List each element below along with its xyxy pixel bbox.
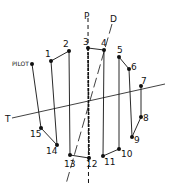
flight-path bbox=[32, 48, 141, 158]
waypoint-pilot bbox=[30, 62, 34, 66]
label-5: 5 bbox=[117, 45, 123, 55]
axis-d-label: D bbox=[110, 14, 117, 24]
label-15: 15 bbox=[30, 129, 41, 139]
label-4: 4 bbox=[101, 38, 107, 48]
label-1: 1 bbox=[45, 49, 51, 59]
waypoint-1 bbox=[49, 59, 53, 63]
label-10: 10 bbox=[121, 149, 133, 159]
label-6: 6 bbox=[131, 62, 137, 72]
label-3: 3 bbox=[83, 37, 89, 47]
axis-t-label: T bbox=[4, 114, 11, 124]
waypoints bbox=[30, 46, 143, 160]
flight-pattern-diagram: P D T PILOT 1 2 3 4 5 6 7 8 9 10 11 12 1… bbox=[0, 0, 177, 193]
label-14: 14 bbox=[46, 146, 58, 156]
label-7: 7 bbox=[141, 76, 147, 86]
waypoint-2 bbox=[67, 49, 71, 53]
label-8: 8 bbox=[143, 113, 149, 123]
axis-p-label: P bbox=[84, 11, 90, 21]
waypoint-4 bbox=[102, 48, 106, 52]
label-pilot: PILOT bbox=[12, 60, 29, 67]
label-13: 13 bbox=[64, 159, 75, 169]
label-12: 12 bbox=[86, 159, 97, 169]
waypoint-13 bbox=[68, 153, 72, 157]
label-9: 9 bbox=[134, 135, 140, 145]
label-2: 2 bbox=[63, 39, 69, 49]
label-11: 11 bbox=[104, 157, 115, 167]
waypoint-5 bbox=[117, 55, 121, 59]
